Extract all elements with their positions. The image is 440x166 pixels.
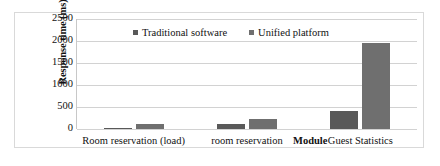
bar-1-1 bbox=[249, 119, 277, 129]
y-axis-line bbox=[76, 19, 77, 129]
plot-area: 05001000150020002500Room reservation (lo… bbox=[77, 19, 417, 129]
y-axis-tick-label: 500 bbox=[27, 100, 73, 111]
gridline bbox=[77, 129, 417, 130]
y-axis-tick-label: 0 bbox=[27, 122, 73, 133]
bar-0-2 bbox=[330, 111, 358, 129]
bar-group bbox=[217, 19, 277, 129]
y-axis-tick-label: 1500 bbox=[27, 56, 73, 67]
bar-group bbox=[330, 19, 390, 129]
bar-group bbox=[104, 19, 164, 129]
chart-container: Response time (ms) Traditional software … bbox=[14, 12, 424, 148]
y-axis-tick-label: 2000 bbox=[27, 34, 73, 45]
x-axis-title: Module bbox=[293, 135, 327, 146]
bar-1-0 bbox=[136, 124, 164, 129]
bar-1-2 bbox=[362, 43, 390, 129]
bar-0-1 bbox=[217, 124, 245, 129]
y-axis-tick-label: 1000 bbox=[27, 78, 73, 89]
y-axis-tick-label: 2500 bbox=[27, 12, 73, 23]
bar-0-0 bbox=[104, 128, 132, 129]
